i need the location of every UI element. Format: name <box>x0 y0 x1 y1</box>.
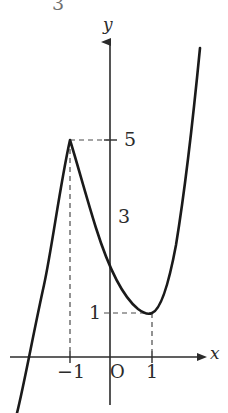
cubic-curve <box>17 48 200 413</box>
x-value-label-1: 1 <box>146 362 158 381</box>
y-value-label-5: 5 <box>124 130 136 149</box>
cropped-top-artifact: 3 <box>52 0 64 13</box>
y-intercept-label-3: 3 <box>118 207 130 226</box>
function-graph-figure: 3 y x 5 3 1 O −1 1 <box>0 0 228 413</box>
y-axis-label: y <box>103 16 113 33</box>
graph-canvas <box>0 0 228 413</box>
y-value-label-1: 1 <box>89 303 101 322</box>
x-axis-label: x <box>210 345 220 362</box>
x-value-label-neg-1: −1 <box>57 362 85 381</box>
origin-label: O <box>110 363 125 381</box>
